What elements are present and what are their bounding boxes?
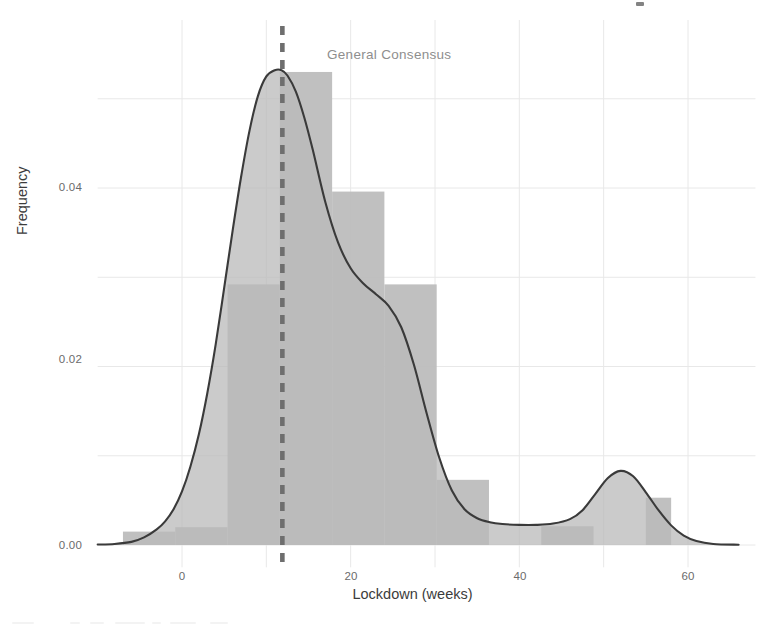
y-tick-label-000: 0.00 [36,539,82,551]
page-artifact-3 [90,622,104,624]
general-consensus-annotation: General Consensus [327,47,451,62]
y-tick-label-002: 0.02 [36,353,82,365]
page-artifact-5 [152,622,161,624]
chart-figure: General Consensus 0.04 0.02 0.00 0 20 40… [0,0,775,626]
page-artifact-1 [12,622,34,624]
x-tick-label-60: 60 [668,570,708,582]
page-artifact-7 [210,622,228,624]
page-artifact-6 [170,622,196,624]
page-artifact-4 [115,622,145,624]
y-axis-label: Frequency [14,166,30,235]
x-tick-label-40: 40 [500,570,540,582]
x-tick-label-0: 0 [162,570,202,582]
page-artifact-2 [70,622,80,624]
cropped-title-speck [636,2,644,6]
y-tick-label-004: 0.04 [36,181,82,193]
x-tick-label-20: 20 [331,570,371,582]
histogram-kde-plot [0,0,775,626]
x-axis-label: Lockdown (weeks) [0,586,775,602]
